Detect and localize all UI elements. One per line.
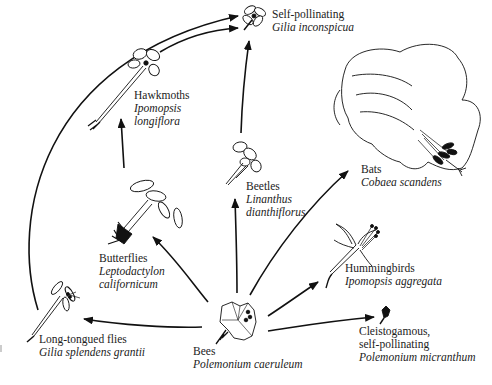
edge-bees-to-beetles bbox=[235, 199, 237, 293]
label-long-tongued-flies: Long-tongued flies Gilia splendens grant… bbox=[39, 333, 145, 359]
species-name-line2: longiflora bbox=[134, 115, 190, 128]
species-name: Gilia inconspicua bbox=[272, 21, 354, 34]
flower-polemonium-caeruleum-icon bbox=[216, 302, 256, 344]
species-name: Cobaea scandens bbox=[361, 176, 442, 189]
pollinator-name: Self-pollinating bbox=[272, 8, 354, 21]
flower-cobaea-scandens-icon bbox=[334, 44, 480, 176]
species-name-line1: Linanthus bbox=[246, 193, 305, 206]
pollinator-name: Butterflies bbox=[99, 252, 165, 265]
species-name-line1: Leptodactylon bbox=[99, 265, 165, 278]
species-name-line1: Ipomopsis bbox=[134, 102, 190, 115]
flower-polemonium-micranthum-icon bbox=[380, 306, 390, 324]
flower-leptodactylon-californicum-icon bbox=[108, 178, 184, 244]
label-bees: Bees Polemonium caeruleum bbox=[193, 345, 303, 371]
pollinator-name: Hummingbirds bbox=[345, 262, 442, 275]
flower-gilia-inconspicua-icon bbox=[241, 4, 267, 30]
pollinator-name: Bats bbox=[361, 163, 442, 176]
edge-bees-to-hummingbirds bbox=[268, 282, 318, 316]
edges bbox=[29, 16, 374, 331]
pollinator-name-line2: self-pollinating bbox=[359, 338, 476, 351]
pollinator-name: Beetles bbox=[246, 180, 305, 193]
species-name: Polemonium caeruleum bbox=[193, 358, 303, 371]
label-self-pollinating: Self-pollinating Gilia inconspicua bbox=[272, 8, 354, 34]
species-name-line2: dianthiflorus bbox=[246, 206, 305, 219]
edge-hawkmoths-to-selfpoll bbox=[160, 28, 238, 52]
pollinator-name: Hawkmoths bbox=[134, 89, 190, 102]
pollinator-name: Long-tongued flies bbox=[39, 333, 145, 346]
species-name: Gilia splendens grantii bbox=[39, 346, 145, 359]
edge-bees-to-flies bbox=[84, 319, 202, 327]
label-bats: Bats Cobaea scandens bbox=[361, 163, 442, 189]
species-name-line2: californicum bbox=[99, 278, 165, 291]
label-beetles: Beetles Linanthus dianthiflorus bbox=[246, 180, 305, 219]
edge-butterflies-to-hawkmoths bbox=[121, 119, 124, 168]
pollinator-name-line1: Cleistogamous, bbox=[359, 325, 476, 338]
label-hummingbirds: Hummingbirds Ipomopsis aggregata bbox=[345, 262, 442, 288]
label-hawkmoths: Hawkmoths Ipomopsis longiflora bbox=[134, 89, 190, 128]
edge-beetles-to-selfpoll bbox=[241, 41, 249, 133]
pollinator-name: Bees bbox=[193, 345, 303, 358]
species-name: Ipomopsis aggregata bbox=[345, 275, 442, 288]
flower-linanthus-dianthiflorus-icon bbox=[226, 141, 263, 185]
label-cleistogamous: Cleistogamous, self-pollinating Polemoni… bbox=[359, 325, 476, 364]
species-name: Polemonium micranthum bbox=[359, 351, 476, 364]
label-butterflies: Butterflies Leptodactylon californicum bbox=[99, 252, 165, 291]
